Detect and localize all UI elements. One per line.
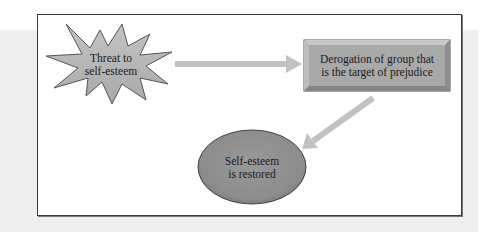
derogation-label-line-2: is the target of prejudice — [304, 66, 450, 79]
threat-label-line-2: self-esteem — [66, 65, 156, 78]
restored-label-line-1: Self-esteem — [208, 155, 296, 168]
derogation-label: Derogation of group that is the target o… — [304, 53, 450, 79]
arrow-right-icon — [175, 55, 302, 73]
restored-label-line-2: is restored — [208, 168, 296, 181]
threat-label-line-1: Threat to — [66, 52, 156, 65]
threat-label: Threat to self-esteem — [66, 52, 156, 78]
derogation-label-line-1: Derogation of group that — [304, 53, 450, 66]
diagram-canvas — [0, 0, 494, 232]
arrow-down-left-icon — [302, 98, 373, 149]
restored-label: Self-esteem is restored — [208, 155, 296, 181]
